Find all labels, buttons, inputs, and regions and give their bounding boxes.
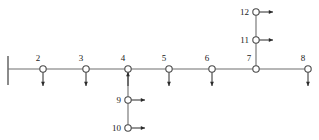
node-label-2: 2 (36, 54, 41, 63)
load-arrow-node-2 (41, 72, 45, 86)
load-arrow-node-3 (84, 72, 88, 86)
arrow-head (269, 10, 273, 14)
load-arrow-node-10 (131, 126, 145, 130)
node-label-8: 8 (301, 54, 306, 63)
arrow-head (141, 126, 145, 130)
node-circle-11 (253, 37, 259, 43)
node-circle-7 (253, 66, 259, 72)
node-circle-8 (305, 66, 311, 72)
diagram-canvas (0, 0, 319, 140)
arrow-head (141, 98, 145, 102)
node-circle-12 (253, 9, 259, 15)
arrow-head (269, 38, 273, 42)
arrow-head (167, 82, 171, 86)
load-arrow-node-4 (126, 72, 130, 86)
load-arrow-node-5 (167, 72, 171, 86)
beam-diagram: 23456789101112 (0, 0, 319, 140)
node-circle-9 (125, 97, 131, 103)
node-circle-3 (83, 66, 89, 72)
node-circle-5 (166, 66, 172, 72)
arrow-head (210, 82, 214, 86)
load-arrow-node-6 (210, 72, 214, 86)
node-label-10: 10 (112, 124, 121, 133)
node-label-9: 9 (117, 96, 122, 105)
arrow-head (306, 82, 310, 86)
node-label-7: 7 (247, 54, 252, 63)
load-arrow-node-8 (306, 72, 310, 86)
node-label-12: 12 (240, 8, 249, 17)
node-label-4: 4 (121, 54, 126, 63)
arrow-head (84, 82, 88, 86)
node-label-6: 6 (205, 54, 210, 63)
node-circle-10 (125, 125, 131, 131)
load-arrow-node-11 (259, 38, 273, 42)
node-label-5: 5 (162, 54, 167, 63)
load-arrow-node-12 (259, 10, 273, 14)
arrow-head (41, 82, 45, 86)
node-label-3: 3 (79, 54, 84, 63)
load-arrow-node-9 (131, 98, 145, 102)
node-circle-2 (40, 66, 46, 72)
node-label-11: 11 (240, 36, 249, 45)
node-circle-6 (209, 66, 215, 72)
node-circle-4 (125, 66, 131, 72)
